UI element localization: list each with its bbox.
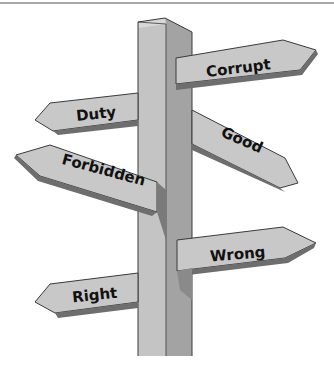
signpost-illustration: Corrupt Duty Good Forbidden Wrong Right xyxy=(0,0,334,369)
sign-corrupt: Corrupt xyxy=(176,40,318,90)
sign-right: Right xyxy=(35,273,138,318)
sign-wrong: Wrong xyxy=(177,227,316,300)
sign-good: Good xyxy=(192,110,298,192)
sign-duty: Duty xyxy=(35,93,138,135)
